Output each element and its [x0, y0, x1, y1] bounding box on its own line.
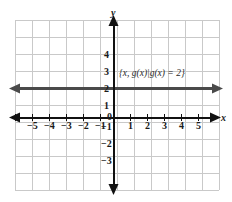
y-tick-label-2: 2 [104, 84, 109, 94]
y-tick-label-minus-3: −3 [101, 156, 112, 166]
x-tick-label-minus-5: −5 [27, 121, 38, 131]
x-axis [9, 113, 221, 123]
x-tick-label-minus-3: −3 [61, 121, 72, 131]
x-tick-label-2: 2 [145, 121, 150, 131]
x-tick-label-1: 1 [128, 121, 133, 131]
x-tick-label-minus-1: −1 [95, 121, 106, 131]
x-tick-label-3: 3 [162, 121, 167, 131]
y-tick-label-minus-2: −2 [101, 139, 112, 149]
x-tick-label-4: 4 [179, 121, 184, 131]
graph-canvas [0, 0, 232, 202]
origin-label-0: 0 [107, 112, 112, 122]
x-axis-left-arrowhead [9, 113, 20, 123]
x-tick-label-minus-4: −4 [44, 121, 55, 131]
y-tick-label-1: 1 [104, 101, 109, 111]
x-tick-label-5: 5 [196, 121, 201, 131]
function-line-left-arrowhead [9, 84, 20, 94]
y-tick-label-3: 3 [104, 67, 109, 77]
function-line-g-of-x-equals-2 [9, 84, 223, 94]
y-tick-label-4: 4 [104, 50, 109, 60]
x-axis-label: x [221, 113, 226, 123]
grid-lines [15, 20, 220, 191]
function-line-right-arrowhead [212, 84, 223, 94]
coordinate-plane-figure: y x 4 3 2 1 −1 −2 −3 −5 −4 −3 −2 −1 0 1 … [0, 0, 232, 202]
set-notation-label: {x, g(x)|g(x) = 2} [119, 69, 185, 79]
x-tick-label-minus-2: −2 [78, 121, 89, 131]
y-axis-label: y [111, 8, 115, 18]
